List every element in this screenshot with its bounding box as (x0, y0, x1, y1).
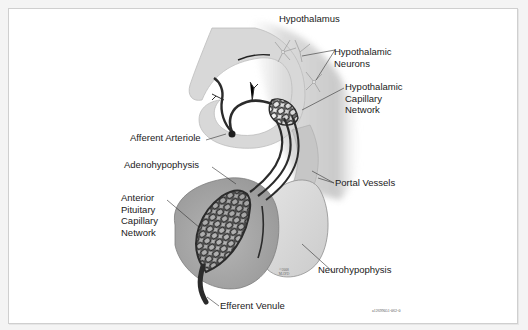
label-hypothalamic-capillary-network: Hypothalamic Capillary Network (345, 81, 403, 116)
label-line: Pituitary (121, 204, 158, 216)
label-line: Hypothalamic (334, 46, 392, 58)
label-neurohypophysis: Neurohypophysis (318, 264, 391, 276)
pituitary-illustration (0, 0, 528, 330)
label-portal-vessels: Portal Vessels (335, 177, 395, 189)
label-adenohypophysis: Adenohypophysis (124, 159, 199, 171)
figure-code: a12699051-062-0 (372, 308, 400, 313)
label-line: Capillary (121, 215, 158, 227)
copyright-line: MAYO (276, 272, 292, 276)
label-line: Network (345, 104, 403, 116)
label-hypothalamic-neurons: Hypothalamic Neurons (334, 46, 392, 69)
label-efferent-venule: Efferent Venule (220, 300, 285, 312)
label-line: Hypothalamic (345, 81, 403, 93)
label-line: Capillary (345, 93, 403, 105)
leader-efferent-venule (207, 297, 219, 306)
afferent-arteriole-vessel (230, 101, 272, 133)
label-line: Anterior (121, 192, 158, 204)
label-anterior-pituitary-capillary-network: Anterior Pituitary Capillary Network (121, 192, 158, 238)
label-hypothalamus: Hypothalamus (279, 13, 340, 25)
label-afferent-arteriole: Afferent Arteriole (130, 132, 201, 144)
label-line: Network (121, 227, 158, 239)
copyright-mark: ©2008 MAYO (276, 268, 292, 276)
label-line: Neurons (334, 58, 392, 70)
